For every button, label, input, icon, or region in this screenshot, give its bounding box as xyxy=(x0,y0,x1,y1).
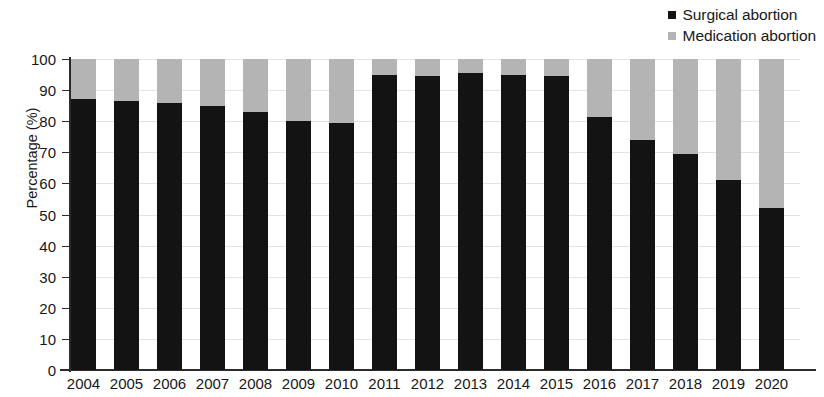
y-axis-tick: 0 xyxy=(62,370,71,371)
bar-series-container xyxy=(71,59,800,370)
bar-group[interactable] xyxy=(415,59,440,370)
bar-group[interactable] xyxy=(501,59,526,370)
y-axis-tick-label: 100 xyxy=(31,52,56,67)
bar-group[interactable] xyxy=(114,59,139,370)
x-axis-tick-label: 2019 xyxy=(707,375,750,392)
bar-segment-medication-abortion[interactable] xyxy=(716,59,741,180)
bar-group[interactable] xyxy=(329,59,354,370)
bar-segment-surgical-abortion[interactable] xyxy=(759,208,784,370)
bar-segment-surgical-abortion[interactable] xyxy=(200,106,225,370)
y-axis-tick-label: 40 xyxy=(39,238,56,253)
y-axis-tick: 50 xyxy=(62,215,71,216)
bar-segment-medication-abortion[interactable] xyxy=(415,59,440,76)
x-axis-tick-label: 2012 xyxy=(406,375,449,392)
x-axis-tick-label: 2020 xyxy=(750,375,793,392)
bar-group[interactable] xyxy=(759,59,784,370)
bar-segment-surgical-abortion[interactable] xyxy=(286,121,311,370)
bar-segment-medication-abortion[interactable] xyxy=(544,59,569,76)
x-axis-tick-label: 2006 xyxy=(148,375,191,392)
bar-segment-medication-abortion[interactable] xyxy=(372,59,397,75)
stacked-bar-chart: Surgical abortion Medication abortion Pe… xyxy=(0,0,824,397)
legend-swatch-medication-abortion xyxy=(668,32,676,40)
bar-segment-surgical-abortion[interactable] xyxy=(329,123,354,370)
bar-segment-surgical-abortion[interactable] xyxy=(243,112,268,370)
bar-segment-surgical-abortion[interactable] xyxy=(501,75,526,370)
bar-segment-surgical-abortion[interactable] xyxy=(114,101,139,370)
bar-group[interactable] xyxy=(71,59,96,370)
y-axis-tick-label: 50 xyxy=(39,207,56,222)
y-axis-tick: 20 xyxy=(62,308,71,309)
bar-segment-surgical-abortion[interactable] xyxy=(157,103,182,370)
x-axis-tick-label: 2011 xyxy=(363,375,406,392)
bar-group[interactable] xyxy=(286,59,311,370)
y-axis-tick-label: 60 xyxy=(39,176,56,191)
y-axis-tick-label: 10 xyxy=(39,331,56,346)
bar-group[interactable] xyxy=(243,59,268,370)
bar-segment-surgical-abortion[interactable] xyxy=(673,154,698,370)
x-axis-tick-label: 2007 xyxy=(191,375,234,392)
x-axis-tick-label: 2018 xyxy=(664,375,707,392)
y-axis-tick: 40 xyxy=(62,246,71,247)
y-axis-tick-label: 80 xyxy=(39,114,56,129)
bar-segment-surgical-abortion[interactable] xyxy=(544,76,569,370)
y-axis-tick-label: 20 xyxy=(39,300,56,315)
bar-group[interactable] xyxy=(544,59,569,370)
y-axis-tick-label: 30 xyxy=(39,269,56,284)
bar-segment-surgical-abortion[interactable] xyxy=(415,76,440,370)
bar-group[interactable] xyxy=(200,59,225,370)
bar-segment-medication-abortion[interactable] xyxy=(114,59,139,101)
y-axis-tick-label: 70 xyxy=(39,145,56,160)
bar-segment-medication-abortion[interactable] xyxy=(200,59,225,106)
y-axis-tick: 100 xyxy=(62,59,71,60)
legend-item-surgical-abortion: Surgical abortion xyxy=(668,6,798,24)
y-axis-tick-label: 90 xyxy=(39,83,56,98)
y-axis-tick: 70 xyxy=(62,152,71,153)
bar-group[interactable] xyxy=(630,59,655,370)
x-axis-tick-label: 2010 xyxy=(320,375,363,392)
bar-segment-surgical-abortion[interactable] xyxy=(71,99,96,370)
bar-segment-surgical-abortion[interactable] xyxy=(587,117,612,370)
y-axis-tick: 80 xyxy=(62,121,71,122)
x-axis-tick-label: 2014 xyxy=(492,375,535,392)
legend-label-surgical-abortion: Surgical abortion xyxy=(683,6,798,24)
bar-segment-medication-abortion[interactable] xyxy=(630,59,655,140)
y-axis-tick: 10 xyxy=(62,339,71,340)
bar-segment-surgical-abortion[interactable] xyxy=(716,180,741,370)
y-axis-tick: 90 xyxy=(62,90,71,91)
legend-item-medication-abortion: Medication abortion xyxy=(668,27,816,45)
bar-segment-medication-abortion[interactable] xyxy=(286,59,311,121)
x-axis-tick-label: 2009 xyxy=(277,375,320,392)
y-axis-tick: 30 xyxy=(62,277,71,278)
bar-segment-medication-abortion[interactable] xyxy=(673,59,698,154)
bar-segment-medication-abortion[interactable] xyxy=(71,59,96,99)
x-axis-tick-label: 2017 xyxy=(621,375,664,392)
bar-group[interactable] xyxy=(157,59,182,370)
x-axis-tick-label: 2005 xyxy=(105,375,148,392)
bar-segment-medication-abortion[interactable] xyxy=(157,59,182,103)
bar-group[interactable] xyxy=(458,59,483,370)
bar-group[interactable] xyxy=(587,59,612,370)
bar-segment-medication-abortion[interactable] xyxy=(587,59,612,117)
x-axis-tick-label: 2013 xyxy=(449,375,492,392)
legend-label-medication-abortion: Medication abortion xyxy=(683,27,816,45)
bar-group[interactable] xyxy=(372,59,397,370)
x-axis-tick-label: 2016 xyxy=(578,375,621,392)
bar-segment-medication-abortion[interactable] xyxy=(329,59,354,123)
bar-segment-medication-abortion[interactable] xyxy=(759,59,784,208)
bar-segment-surgical-abortion[interactable] xyxy=(630,140,655,370)
bar-segment-medication-abortion[interactable] xyxy=(458,59,483,73)
y-axis-title: Percentage (%) xyxy=(24,78,40,238)
x-axis-tick-label: 2004 xyxy=(62,375,105,392)
y-axis-tick-label: 0 xyxy=(48,363,56,378)
bar-segment-surgical-abortion[interactable] xyxy=(458,73,483,370)
x-axis-tick-label: 2015 xyxy=(535,375,578,392)
plot-area: 1009080706050403020100 xyxy=(71,59,800,370)
legend-swatch-surgical-abortion xyxy=(668,11,676,19)
bar-segment-surgical-abortion[interactable] xyxy=(372,75,397,370)
bar-group[interactable] xyxy=(673,59,698,370)
x-axis-tick-label: 2008 xyxy=(234,375,277,392)
chart-legend: Surgical abortion Medication abortion xyxy=(668,6,816,45)
bar-segment-medication-abortion[interactable] xyxy=(243,59,268,112)
bar-segment-medication-abortion[interactable] xyxy=(501,59,526,75)
bar-group[interactable] xyxy=(716,59,741,370)
